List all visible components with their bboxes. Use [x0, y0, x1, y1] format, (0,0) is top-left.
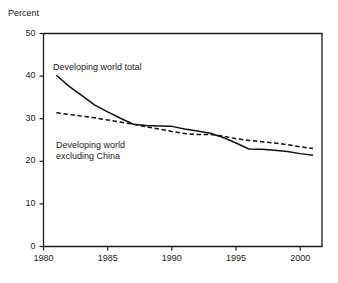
annotation-total: Developing world total [53, 62, 142, 73]
y-tick-label: 40 [12, 70, 36, 80]
x-tick-label: 2000 [280, 253, 320, 263]
chart-figure: Percent 01020304050 19801985199019952000… [0, 0, 338, 283]
x-tick-label: 1985 [88, 253, 128, 263]
x-tick-label: 1980 [24, 253, 64, 263]
chart-plot-area [0, 0, 338, 283]
x-tick-label: 1990 [152, 253, 192, 263]
y-axis-title: Percent [8, 8, 39, 18]
x-tick-label: 1995 [216, 253, 256, 263]
y-tick-label: 0 [12, 241, 36, 251]
y-tick-label: 10 [12, 198, 36, 208]
y-tick-label: 30 [12, 113, 36, 123]
y-tick-label: 50 [12, 28, 36, 38]
annotation-excluding-china: Developing world excluding China [56, 140, 125, 162]
y-tick-label: 20 [12, 155, 36, 165]
